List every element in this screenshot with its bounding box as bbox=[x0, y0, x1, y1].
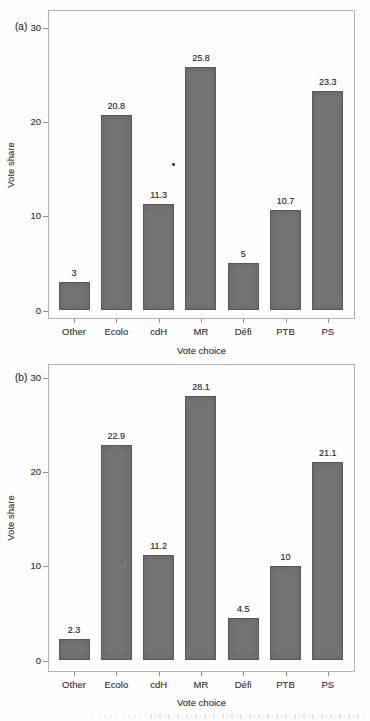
scan-speck bbox=[172, 163, 175, 166]
y-tick-label: 30 bbox=[19, 373, 41, 383]
bar-value-label: 2.3 bbox=[52, 625, 96, 635]
x-tick-mark bbox=[159, 672, 160, 676]
y-tick-label: 20 bbox=[19, 467, 41, 477]
chart-b: (b) Vote share Vote choice 01020302.3Oth… bbox=[0, 0, 370, 721]
bar-défi bbox=[228, 618, 259, 660]
x-tick-label-other: Other bbox=[51, 679, 97, 690]
x-tick-label-ptb: PTB bbox=[263, 679, 309, 690]
x-tick-label-ps: PS bbox=[305, 679, 351, 690]
y-tick-mark bbox=[43, 472, 48, 473]
x-tick-label-ecolo: Ecolo bbox=[93, 679, 139, 690]
scanned-figure-page: (a) Vote share Vote choice 01020303Other… bbox=[0, 0, 370, 721]
bar-value-label: 11.2 bbox=[137, 541, 181, 551]
x-tick-mark bbox=[116, 672, 117, 676]
bar-value-label: 10 bbox=[264, 552, 308, 562]
y-tick-mark bbox=[43, 661, 48, 662]
cropped-caption-remnant bbox=[92, 715, 147, 719]
y-tick-mark bbox=[43, 378, 48, 379]
x-tick-label-défi: Défi bbox=[220, 679, 266, 690]
scan-speck bbox=[121, 561, 123, 563]
y-tick-label: 10 bbox=[19, 561, 41, 571]
x-tick-mark bbox=[328, 672, 329, 676]
cropped-caption-remnant bbox=[150, 714, 364, 719]
y-axis-title-b: Vote share bbox=[5, 495, 16, 540]
x-tick-mark bbox=[74, 672, 75, 676]
bar-value-label: 28.1 bbox=[179, 382, 223, 392]
bar-ptb bbox=[270, 566, 301, 660]
bar-cdh bbox=[143, 555, 174, 661]
bar-ps bbox=[312, 462, 343, 661]
y-tick-label: 0 bbox=[19, 656, 41, 666]
bar-other bbox=[59, 639, 90, 661]
bar-value-label: 4.5 bbox=[221, 604, 265, 614]
x-tick-mark bbox=[201, 672, 202, 676]
x-tick-mark bbox=[243, 672, 244, 676]
x-tick-label-mr: MR bbox=[178, 679, 224, 690]
y-tick-mark bbox=[43, 566, 48, 567]
bar-mr bbox=[185, 396, 216, 661]
bar-value-label: 21.1 bbox=[306, 448, 350, 458]
x-tick-mark bbox=[286, 672, 287, 676]
bar-value-label: 22.9 bbox=[94, 431, 138, 441]
x-axis-title-b: Vote choice bbox=[48, 697, 355, 708]
x-tick-label-cdh: cdH bbox=[136, 679, 182, 690]
bar-ecolo bbox=[101, 445, 132, 661]
